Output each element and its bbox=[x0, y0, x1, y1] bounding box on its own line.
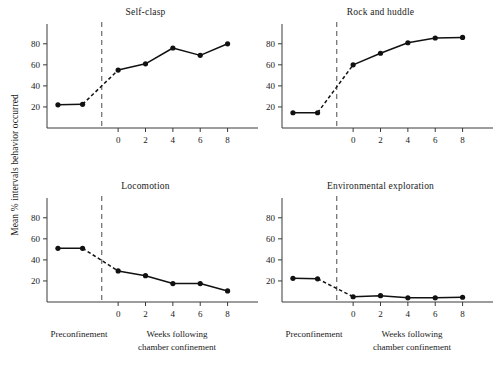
data-point-marker bbox=[55, 102, 60, 107]
y-tick-label: 80 bbox=[31, 39, 41, 49]
x-tick-label: 2 bbox=[378, 309, 383, 319]
panel-title: Rock and huddle bbox=[347, 7, 414, 17]
x-tick-label: 8 bbox=[460, 135, 465, 145]
transition-series-line bbox=[318, 65, 354, 113]
data-point-marker bbox=[143, 61, 148, 66]
axis-lines bbox=[47, 198, 258, 302]
data-point-marker bbox=[55, 246, 60, 251]
transition-series-line bbox=[83, 70, 119, 104]
y-axis-label: Mean % intervals behavior occurred bbox=[10, 40, 20, 290]
y-tick-label: 80 bbox=[31, 213, 41, 223]
panel-title: Self-clasp bbox=[126, 7, 166, 17]
data-point-marker bbox=[290, 110, 295, 115]
x-tick-label: 4 bbox=[406, 309, 411, 319]
chart-panel-top-left: Self-clasp2040608002468 bbox=[31, 7, 258, 145]
y-tick-label: 20 bbox=[266, 276, 276, 286]
preconfinement-caption: Preconfinement bbox=[286, 329, 343, 339]
data-point-marker bbox=[143, 273, 148, 278]
x-tick-label: 6 bbox=[198, 309, 203, 319]
preconfinement-series-line bbox=[293, 278, 318, 279]
x-tick-label: 8 bbox=[460, 309, 465, 319]
axis-lines bbox=[47, 24, 258, 128]
x-tick-label: 4 bbox=[171, 309, 176, 319]
x-tick-label: 8 bbox=[225, 135, 230, 145]
data-point-marker bbox=[225, 288, 230, 293]
x-tick-label: 0 bbox=[116, 309, 121, 319]
x-tick-label: 8 bbox=[225, 309, 230, 319]
panel-title: Environmental exploration bbox=[327, 181, 434, 191]
x-tick-label: 6 bbox=[433, 309, 438, 319]
data-point-marker bbox=[405, 295, 410, 300]
data-point-marker bbox=[378, 293, 383, 298]
data-point-marker bbox=[351, 294, 356, 299]
x-tick-label: 2 bbox=[143, 309, 148, 319]
x-tick-label: 4 bbox=[171, 135, 176, 145]
four-panel-line-chart-figure: Mean % intervals behavior occurred Self-… bbox=[0, 0, 499, 366]
weeks-caption-line1: Weeks following bbox=[381, 329, 443, 339]
data-point-marker bbox=[170, 281, 175, 286]
data-point-marker bbox=[460, 35, 465, 40]
transition-series-line bbox=[318, 279, 354, 297]
data-point-marker bbox=[378, 51, 383, 56]
y-tick-label: 60 bbox=[266, 234, 276, 244]
data-point-marker bbox=[198, 53, 203, 58]
plot-canvas: Self-clasp2040608002468Rock and huddle20… bbox=[0, 0, 499, 366]
weeks-caption-line2: chamber confinement bbox=[373, 342, 452, 352]
y-axis-label-container: Mean % intervals behavior occurred bbox=[0, 0, 22, 366]
y-tick-label: 20 bbox=[31, 276, 41, 286]
weeks-caption-line1: Weeks following bbox=[146, 329, 208, 339]
weeks-caption-line2: chamber confinement bbox=[138, 342, 217, 352]
data-point-marker bbox=[225, 41, 230, 46]
y-tick-label: 80 bbox=[266, 39, 276, 49]
data-point-marker bbox=[170, 45, 175, 50]
y-tick-label: 40 bbox=[266, 255, 276, 265]
x-tick-label: 0 bbox=[116, 135, 121, 145]
axis-lines bbox=[282, 198, 493, 302]
data-point-marker bbox=[290, 276, 295, 281]
data-point-marker bbox=[315, 110, 320, 115]
x-tick-label: 6 bbox=[198, 135, 203, 145]
data-point-marker bbox=[405, 40, 410, 45]
data-point-marker bbox=[315, 276, 320, 281]
x-tick-label: 2 bbox=[143, 135, 148, 145]
chart-panel-top-right: Rock and huddle2040608002468 bbox=[266, 7, 493, 145]
y-tick-label: 80 bbox=[266, 213, 276, 223]
data-point-marker bbox=[433, 295, 438, 300]
x-tick-label: 6 bbox=[433, 135, 438, 145]
y-tick-label: 20 bbox=[266, 102, 276, 112]
preconfinement-series-line bbox=[58, 104, 83, 105]
y-tick-label: 40 bbox=[31, 81, 41, 91]
y-tick-label: 60 bbox=[31, 234, 41, 244]
panel-title: Locomotion bbox=[121, 181, 169, 191]
data-point-marker bbox=[116, 268, 121, 273]
data-point-marker bbox=[198, 281, 203, 286]
chart-panel-bottom-left: Locomotion2040608002468PreconfinementWee… bbox=[31, 181, 258, 352]
data-point-marker bbox=[351, 62, 356, 67]
data-point-marker bbox=[433, 35, 438, 40]
x-tick-label: 0 bbox=[351, 135, 356, 145]
data-point-marker bbox=[460, 295, 465, 300]
x-tick-label: 2 bbox=[378, 135, 383, 145]
data-point-marker bbox=[80, 102, 85, 107]
y-tick-label: 20 bbox=[31, 102, 41, 112]
y-tick-label: 40 bbox=[31, 255, 41, 265]
y-tick-label: 40 bbox=[266, 81, 276, 91]
x-tick-label: 4 bbox=[406, 135, 411, 145]
x-tick-label: 0 bbox=[351, 309, 356, 319]
postconfinement-series-line bbox=[118, 271, 227, 291]
data-point-marker bbox=[80, 246, 85, 251]
transition-series-line bbox=[83, 248, 119, 271]
chart-panel-bottom-right: Environmental exploration2040608002468Pr… bbox=[266, 181, 493, 352]
data-point-marker bbox=[116, 68, 121, 73]
preconfinement-caption: Preconfinement bbox=[51, 329, 108, 339]
y-tick-label: 60 bbox=[31, 60, 41, 70]
y-tick-label: 60 bbox=[266, 60, 276, 70]
